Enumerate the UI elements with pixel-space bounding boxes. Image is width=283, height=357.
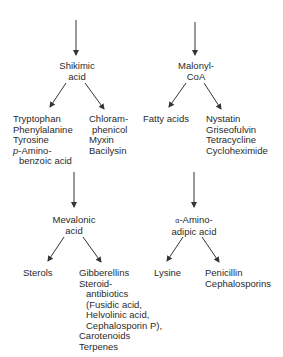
list-shikimic-aromatics: Tryptophan Phenylalanine Tyrosine p-Amin…: [13, 114, 73, 167]
list-mevalonic-sterols: Sterols: [23, 268, 53, 279]
list-item: Gibberellins: [79, 268, 162, 279]
list-aminoadipic-lysine: Lysine: [154, 268, 181, 279]
node-malonyl-coa: Malonyl- CoA: [171, 60, 221, 82]
list-item: Terpenes: [79, 342, 162, 353]
arrow-malonyl-to-polyketides: [204, 83, 221, 109]
list-item: Lysine: [154, 268, 181, 279]
list-item: Sterols: [23, 268, 53, 279]
list-item: Fatty acids: [143, 114, 189, 125]
node-shikimic-acid: Shikimic acid: [52, 60, 102, 82]
node-aminoadipic-acid: α-Amino- adipic acid: [162, 214, 226, 237]
list-aminoadipic-betalactams: Penicillin Cephalosporins: [205, 268, 271, 289]
list-item: Chloram-: [89, 114, 128, 125]
list-shikimic-antibiotics: Chloram- phenicol Myxin Bacilysin: [89, 114, 128, 156]
amino-text: -Amino-: [179, 214, 212, 225]
list-item: Helvolinic acid,: [79, 310, 162, 321]
list-item: Nystatin: [206, 114, 268, 125]
arrow-mevalonic-to-sterols: [48, 237, 64, 261]
shikimic-line2: acid: [52, 71, 102, 82]
arrow-mevalonic-to-gibberellins: [83, 237, 101, 262]
list-malonyl-fatty: Fatty acids: [143, 114, 189, 125]
list-item: Myxin: [89, 135, 128, 146]
list-item: Cephalosporins: [205, 279, 271, 290]
list-malonyl-polyketides: Nystatin Griseofulvin Tetracycline Cyclo…: [206, 114, 268, 156]
list-mevalonic-terpenoids: Gibberellins Steroid- antibiotics (Fusid…: [79, 268, 162, 352]
aminoadipic-line1: α-Amino-: [162, 214, 226, 226]
shikimic-line1: Shikimic: [52, 60, 102, 71]
mevalonic-line1: Mevalonic: [46, 214, 102, 225]
list-item: Cycloheximide: [206, 146, 268, 157]
list-item: Tetracycline: [206, 135, 268, 146]
list-item: Penicillin: [205, 268, 271, 279]
aminoadipic-line2: adipic acid: [162, 226, 226, 237]
arrow-aminoadipic-to-lysine: [167, 237, 183, 261]
mevalonic-line2: acid: [46, 225, 102, 236]
arrow-shikimic-to-aromatics: [50, 83, 66, 107]
arrow-malonyl-to-fatty-acids: [169, 83, 186, 107]
malonyl-line2: CoA: [171, 71, 221, 82]
list-item: Bacilysin: [89, 146, 128, 157]
arrow-aminoadipic-to-penicillin: [202, 237, 219, 262]
list-item: antibiotics: [79, 289, 162, 300]
list-item: Carotenoids: [79, 331, 162, 342]
arrow-shikimic-to-chloramphenicol: [85, 83, 104, 109]
malonyl-line1: Malonyl-: [171, 60, 221, 71]
amino-suffix: -Amino-: [18, 145, 51, 156]
list-item: Tryptophan: [13, 114, 73, 125]
list-item: benzoic acid: [13, 156, 73, 167]
node-mevalonic-acid: Mevalonic acid: [46, 214, 102, 236]
